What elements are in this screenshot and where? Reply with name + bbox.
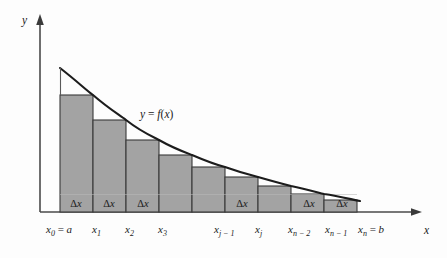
x-tick-label-x1: x1	[91, 223, 101, 238]
table-row	[258, 186, 291, 212]
delta-x-label: Δx	[236, 198, 248, 209]
delta-x-label: Δx	[103, 198, 115, 209]
x-tick-label-xj: xj	[254, 223, 263, 238]
svg-text:y = f(x): y = f(x)	[139, 108, 174, 121]
riemann-sum-figure: y x y = f(x) Δx Δx Δx Δx Δx Δx x0 = a x1…	[0, 0, 447, 258]
delta-x-label: Δx	[70, 198, 82, 209]
x-tick-label-xn-2: xn − 2	[287, 223, 310, 238]
curve-label-equals: =	[145, 108, 157, 120]
x-axis-arrowhead	[411, 208, 422, 216]
table-row	[192, 167, 225, 212]
x-tick-label-xj-1: xj − 1	[213, 223, 235, 238]
x-tick-label-x0: x0 = a	[45, 223, 73, 238]
x-tick-labels-group: x0 = a x1 x2 x3 xj − 1 xj xn − 2 xn − 1 …	[45, 223, 385, 238]
delta-x-label: Δx	[336, 198, 348, 209]
x-tick-label-x2: x2	[124, 223, 134, 238]
x-tick-label-xn-1: xn − 1	[324, 223, 347, 238]
y-axis-arrowhead	[36, 14, 44, 25]
table-row	[159, 155, 192, 212]
curve-label-close-paren: )	[170, 108, 174, 121]
x-tick-label-xn: xn = b	[357, 223, 385, 238]
y-axis-label: y	[21, 14, 28, 27]
delta-x-label: Δx	[303, 198, 315, 209]
curve-label: y = f(x)	[139, 108, 174, 121]
x-axis-label: x	[423, 224, 430, 236]
delta-x-label: Δx	[137, 198, 149, 209]
riemann-sum-svg: y x y = f(x) Δx Δx Δx Δx Δx Δx x0 = a x1…	[0, 0, 447, 258]
x-tick-label-x3: x3	[157, 223, 167, 238]
